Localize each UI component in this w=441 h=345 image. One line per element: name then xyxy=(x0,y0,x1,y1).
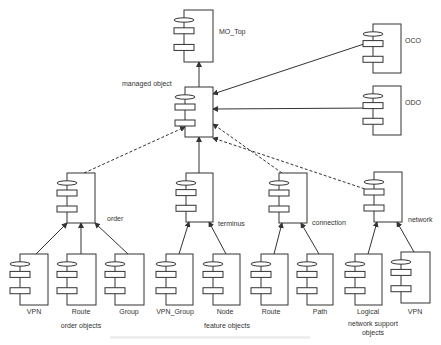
port-rect-icon xyxy=(174,44,194,50)
edge-path-to-connection xyxy=(301,223,319,254)
edge-group-to-order xyxy=(95,223,128,254)
port-rect-icon xyxy=(345,288,365,294)
port-rect-icon xyxy=(203,288,223,294)
component-vpn1 xyxy=(10,254,48,305)
edge-odo-to-managed xyxy=(213,108,373,109)
component-route1 xyxy=(57,254,96,305)
label-connection: connection xyxy=(312,219,346,226)
port-rect-icon xyxy=(251,271,271,277)
edge-route2-to-connection xyxy=(274,223,282,254)
port-rect-icon xyxy=(175,104,195,110)
interface-ellipse-icon xyxy=(363,32,383,36)
label-mo-top: MO_Top xyxy=(219,28,245,35)
port-rect-icon xyxy=(105,271,125,277)
interface-ellipse-icon xyxy=(57,262,77,266)
port-rect-icon xyxy=(10,271,30,277)
port-rect-icon xyxy=(57,206,77,212)
label-oco: OCO xyxy=(405,37,421,44)
port-rect-icon xyxy=(174,28,194,34)
edge-logical-to-network xyxy=(368,222,377,254)
port-rect-icon xyxy=(57,288,77,294)
component-path xyxy=(297,254,333,305)
component-connection xyxy=(269,173,307,223)
interface-ellipse-icon xyxy=(156,262,176,266)
port-rect-icon xyxy=(175,120,195,126)
port-rect-icon xyxy=(363,103,383,109)
port-rect-icon xyxy=(345,271,365,277)
port-rect-icon xyxy=(364,189,384,195)
figure-caption-faint xyxy=(110,336,310,339)
port-rect-icon xyxy=(10,288,30,294)
component-box xyxy=(186,173,213,222)
label-order: order xyxy=(107,215,123,222)
port-rect-icon xyxy=(251,288,271,294)
port-rect-icon xyxy=(203,271,223,277)
label-vpn: VPN xyxy=(27,308,41,315)
port-rect-icon xyxy=(57,190,77,196)
diagram-canvas xyxy=(0,0,441,345)
group-label-network-support-objects: objects xyxy=(362,329,384,336)
label-odo: ODO xyxy=(405,99,421,106)
interface-ellipse-icon xyxy=(269,181,289,185)
port-rect-icon xyxy=(363,56,383,62)
component-terminus xyxy=(176,173,213,222)
edge-order-to-managed xyxy=(84,127,185,173)
port-rect-icon xyxy=(176,205,196,211)
label-network: network xyxy=(408,216,433,223)
component-logical xyxy=(345,254,382,305)
label-logical: Logical xyxy=(357,308,379,315)
edge-connection-to-managed xyxy=(213,124,282,173)
component-odo xyxy=(363,86,401,135)
group-label-feature-objects: feature objects xyxy=(204,322,250,329)
port-rect-icon xyxy=(156,271,176,277)
component-box xyxy=(373,24,401,73)
port-rect-icon xyxy=(363,41,383,47)
interface-ellipse-icon xyxy=(174,18,194,22)
component-node xyxy=(203,254,240,305)
label-managed-object: managed object xyxy=(122,80,172,87)
interface-ellipse-icon xyxy=(10,262,30,266)
port-rect-icon xyxy=(364,205,384,211)
port-rect-icon xyxy=(176,190,196,196)
component-network xyxy=(364,172,402,222)
port-rect-icon xyxy=(297,271,317,277)
edge-vpn_group-to-terminus xyxy=(179,222,189,254)
interface-ellipse-icon xyxy=(345,262,365,266)
component-order xyxy=(57,173,95,223)
edge-oco-to-managed xyxy=(213,41,373,94)
label-terminus: terminus xyxy=(218,220,245,227)
interface-ellipse-icon xyxy=(391,260,411,264)
component-vpn_group xyxy=(156,254,193,305)
edge-vpn2-to-network xyxy=(397,222,414,252)
interface-ellipse-icon xyxy=(297,262,317,266)
label-route-feature: Route xyxy=(262,308,281,315)
component-route2 xyxy=(251,254,288,305)
interface-ellipse-icon xyxy=(105,262,125,266)
component-oco xyxy=(363,24,401,73)
edge-vpn1-to-order xyxy=(36,223,67,254)
component-group xyxy=(105,254,144,305)
port-rect-icon xyxy=(391,269,411,275)
interface-ellipse-icon xyxy=(175,95,195,99)
component-vpn2 xyxy=(391,252,430,303)
interface-ellipse-icon xyxy=(363,94,383,98)
label-vpn-group: VPN_Group xyxy=(156,308,194,315)
group-label-network-support: network support xyxy=(348,320,398,327)
component-mo_top xyxy=(174,10,213,62)
interface-ellipse-icon xyxy=(57,181,77,185)
interface-ellipse-icon xyxy=(203,262,223,266)
label-node: Node xyxy=(217,308,234,315)
port-rect-icon xyxy=(105,288,125,294)
interface-ellipse-icon xyxy=(364,180,384,184)
interface-ellipse-icon xyxy=(251,262,271,266)
port-rect-icon xyxy=(269,206,289,212)
port-rect-icon xyxy=(269,190,289,196)
port-rect-icon xyxy=(363,118,383,124)
label-route: Route xyxy=(72,308,91,315)
nodes xyxy=(10,10,430,305)
label-vpn-network: VPN xyxy=(408,308,422,315)
port-rect-icon xyxy=(156,288,176,294)
label-group: Group xyxy=(119,308,138,315)
port-rect-icon xyxy=(391,286,411,292)
label-path: Path xyxy=(313,308,327,315)
